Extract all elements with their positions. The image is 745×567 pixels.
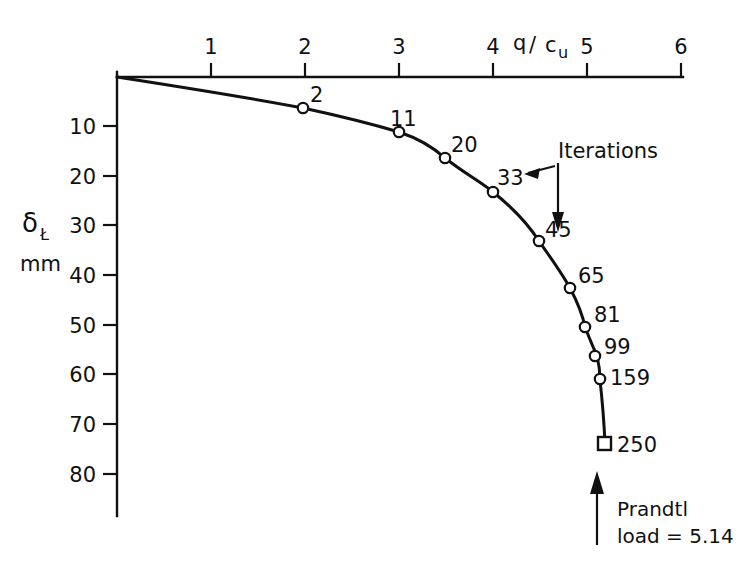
data-label-159: 159 [610, 366, 650, 390]
x-axis: 1 2 3 4 5 6 q / c u [117, 31, 688, 77]
y-tick-label-10: 10 [69, 115, 96, 139]
data-point-99 [590, 351, 600, 361]
y-tick-label-50: 50 [69, 314, 96, 338]
chart-figure: 1 2 3 4 5 6 q / c u 10 2 [0, 0, 745, 567]
load-settlement-curve [117, 77, 605, 444]
y-axis-title: δ Ł mm [20, 208, 61, 276]
y-tick-label-40: 40 [69, 264, 96, 288]
x-tick-label-1: 1 [204, 35, 217, 59]
prandtl-note-line-1: Prandtl [617, 497, 688, 521]
x-tick-label-5: 5 [580, 35, 593, 59]
y-axis: 10 20 30 40 50 60 70 80 δ Ł mm [20, 72, 117, 516]
y-axis-title-delta: δ [22, 208, 38, 238]
iterations-arrow-to-33-head [524, 168, 540, 179]
data-label-2: 2 [310, 83, 323, 107]
iterations-label: Iterations [558, 139, 658, 163]
y-tick-label-70: 70 [69, 413, 96, 437]
x-tick-label-6: 6 [674, 35, 687, 59]
y-tick-label-60: 60 [69, 363, 96, 387]
x-axis-title-c: c [545, 33, 557, 57]
data-point-45 [534, 236, 544, 246]
data-label-250: 250 [617, 433, 657, 457]
data-label-20: 20 [451, 133, 478, 157]
data-point-2 [298, 103, 308, 113]
x-tick-label-4: 4 [486, 35, 499, 59]
x-tick-label-2: 2 [298, 35, 311, 59]
prandtl-arrow-head [590, 471, 604, 494]
data-label-33: 33 [497, 166, 524, 190]
x-axis-title: q / c u [513, 31, 568, 62]
prandtl-note-line-2: load = 5.14 [617, 524, 734, 548]
data-point-65 [565, 283, 575, 293]
data-label-99: 99 [604, 335, 631, 359]
data-label-65: 65 [578, 264, 605, 288]
y-axis-title-delta-subscript: Ł [39, 225, 49, 244]
y-tick-label-30: 30 [69, 214, 96, 238]
x-axis-title-c-subscript: u [558, 43, 568, 62]
data-point-81 [580, 322, 590, 332]
data-point-250 [598, 437, 611, 450]
x-tick-label-3: 3 [392, 35, 405, 59]
x-axis-title-q: q [513, 31, 526, 55]
y-axis-title-units: mm [20, 252, 61, 276]
y-tick-label-80: 80 [69, 463, 96, 487]
data-label-81: 81 [594, 303, 621, 327]
data-point-159 [595, 374, 605, 384]
x-axis-title-slash: / [529, 33, 537, 57]
data-label-11: 11 [390, 107, 417, 131]
y-tick-label-20: 20 [69, 165, 96, 189]
load-settlement-chart: 1 2 3 4 5 6 q / c u 10 2 [0, 0, 745, 567]
data-point-20 [440, 153, 450, 163]
prandtl-load-annotation: Prandtl load = 5.14 [590, 471, 734, 548]
